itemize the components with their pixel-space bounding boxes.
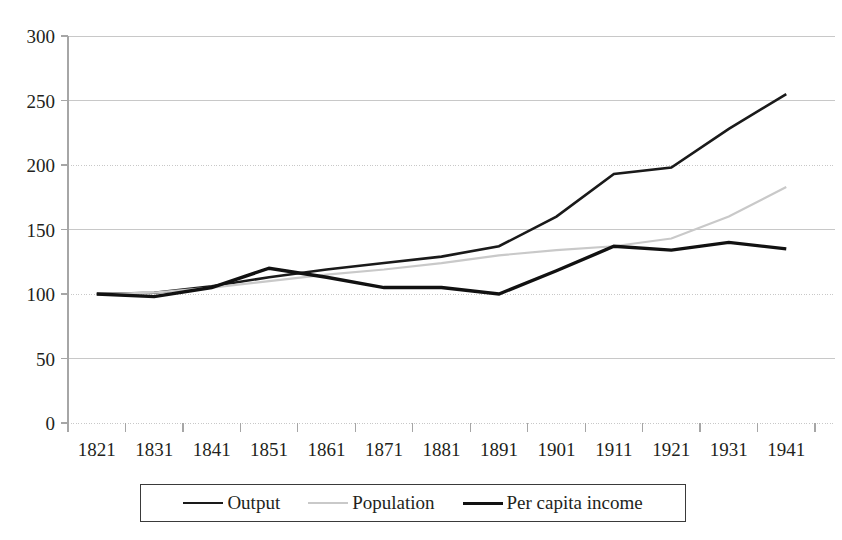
chart-canvas: 050100150200250300 182118311841185118611… xyxy=(0,0,842,470)
svg-text:1881: 1881 xyxy=(423,439,461,460)
legend-label-per-capita-income: Per capita income xyxy=(507,492,643,514)
line-chart-figure: 050100150200250300 182118311841185118611… xyxy=(0,0,842,540)
legend-entry-population: Population xyxy=(294,492,448,514)
gridlines xyxy=(68,36,835,423)
svg-text:250: 250 xyxy=(27,91,56,112)
svg-text:1841: 1841 xyxy=(193,439,231,460)
per-capita-income-line-swatch xyxy=(463,502,503,505)
series-line-per-capita-income xyxy=(97,242,787,296)
x-axis-ticks xyxy=(68,423,815,432)
svg-text:1921: 1921 xyxy=(652,439,690,460)
svg-text:1931: 1931 xyxy=(710,439,748,460)
output-line-swatch xyxy=(183,502,223,504)
x-tick-labels: 1821183118411851186118711881189119011911… xyxy=(78,439,806,460)
population-line-swatch xyxy=(308,502,348,504)
svg-text:1861: 1861 xyxy=(308,439,346,460)
svg-text:0: 0 xyxy=(46,413,56,434)
legend-label-population: Population xyxy=(352,492,434,514)
svg-text:300: 300 xyxy=(27,26,56,47)
svg-text:50: 50 xyxy=(36,349,55,370)
svg-text:1821: 1821 xyxy=(78,439,116,460)
plot-area: 050100150200250300 182118311841185118611… xyxy=(0,0,842,470)
y-tick-labels: 050100150200250300 xyxy=(27,26,56,434)
legend-label-output: Output xyxy=(227,492,280,514)
svg-text:1831: 1831 xyxy=(135,439,173,460)
svg-text:1941: 1941 xyxy=(767,439,805,460)
svg-text:100: 100 xyxy=(27,284,56,305)
svg-text:1891: 1891 xyxy=(480,439,518,460)
series-lines xyxy=(97,94,787,297)
svg-text:1851: 1851 xyxy=(250,439,288,460)
svg-text:1911: 1911 xyxy=(595,439,632,460)
legend-entry-per-capita-income: Per capita income xyxy=(449,492,657,514)
y-axis-ticks xyxy=(61,36,68,423)
svg-text:1901: 1901 xyxy=(537,439,575,460)
svg-text:1871: 1871 xyxy=(365,439,403,460)
legend-entry-output: Output xyxy=(169,492,294,514)
svg-text:200: 200 xyxy=(27,155,56,176)
chart-legend: Output Population Per capita income xyxy=(140,484,686,522)
series-line-population xyxy=(97,187,787,294)
svg-text:150: 150 xyxy=(27,220,56,241)
